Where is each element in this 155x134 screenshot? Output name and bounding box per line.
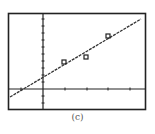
figure-caption: (c) — [0, 112, 155, 122]
regression-line — [10, 19, 141, 97]
data-point-marker — [106, 34, 110, 38]
data-point-marker — [84, 55, 88, 59]
data-points — [62, 34, 110, 64]
calculator-graph-figure: (c) — [0, 0, 155, 134]
data-point-marker — [62, 60, 66, 64]
